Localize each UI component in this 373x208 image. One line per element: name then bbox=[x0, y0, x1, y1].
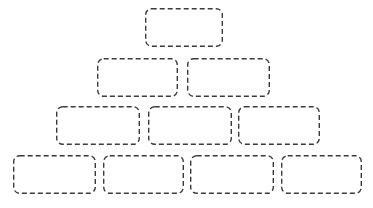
diagram-canvas bbox=[0, 0, 373, 208]
diagram-background bbox=[0, 0, 373, 208]
brick-pyramid-diagram bbox=[0, 0, 373, 208]
